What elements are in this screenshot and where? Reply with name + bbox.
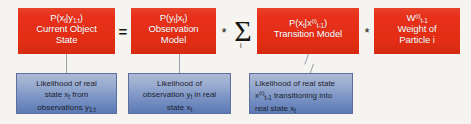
term-box-observation: P(yt|xt) Observation Model bbox=[131, 8, 216, 54]
connector-line-posterior bbox=[66, 54, 67, 73]
note-observation-line1: Likelihood of bbox=[134, 78, 225, 89]
operator-summation: Σ bbox=[232, 16, 254, 46]
note-posterior-line3: observations y1:t bbox=[22, 102, 111, 115]
term-box-transition: P(xt|x(i)t-1) Transition Model bbox=[257, 8, 359, 54]
summation-index: i bbox=[240, 42, 242, 49]
term-label-transition-line1: Transition Model bbox=[257, 29, 359, 40]
note-transition-line1: Likelihood of real state bbox=[255, 78, 347, 89]
note-box-transition: Likelihood of real state x(i)t-1 transit… bbox=[249, 73, 353, 114]
note-transition-line2: x(i)t-1 transitioning into bbox=[255, 89, 347, 103]
connector-line-transition bbox=[304, 54, 309, 65]
equation-diagram: P(xt|y1:t) Current Object State = P(yt|x… bbox=[0, 0, 471, 124]
operator-multiply-2: * bbox=[362, 26, 372, 39]
operator-multiply-1: * bbox=[219, 26, 229, 39]
note-observation-line2: observation yt in real bbox=[134, 89, 225, 102]
note-box-posterior: Likelihood of real state xt from observa… bbox=[16, 73, 117, 114]
note-transition-line3: real state xt bbox=[255, 103, 347, 116]
term-label-observation-line2: Model bbox=[131, 35, 216, 46]
note-observation-line3: state xt bbox=[134, 102, 225, 115]
connector-line-observation bbox=[179, 54, 180, 73]
operator-equals: = bbox=[116, 24, 130, 39]
term-label-weight-line2: Particle i bbox=[374, 35, 460, 46]
term-box-weight: W(i)t-1 Weight of Particle i bbox=[374, 8, 460, 54]
note-posterior-line2: state xt from bbox=[22, 89, 111, 102]
note-posterior-line1: Likelihood of real bbox=[22, 78, 111, 89]
term-box-posterior: P(xt|y1:t) Current Object State bbox=[18, 8, 115, 54]
note-box-observation: Likelihood of observation yt in real sta… bbox=[128, 73, 231, 114]
term-label-posterior-line2: State bbox=[18, 35, 115, 46]
